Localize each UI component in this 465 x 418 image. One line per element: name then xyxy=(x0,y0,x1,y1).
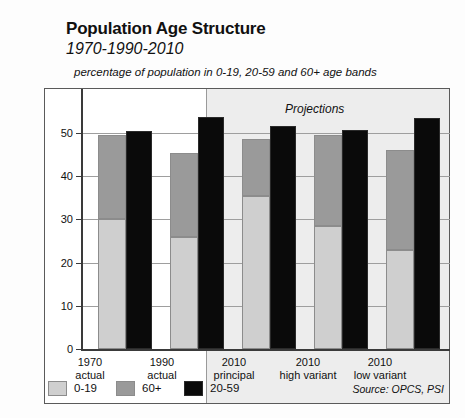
legend-label-60plus: 60+ xyxy=(142,382,162,394)
ytick-label-10: 10 xyxy=(45,300,73,312)
chart-subtitle: 1970-1990-2010 xyxy=(66,40,183,58)
chart-title: Population Age Structure xyxy=(66,19,266,39)
ytick-label-20: 20 xyxy=(45,257,73,269)
segment-60plus-2010-high xyxy=(314,135,342,226)
bar-20to59-2010-principal xyxy=(270,126,296,349)
segment-60plus-2010-low xyxy=(386,150,414,250)
bar-20to59-2010-high xyxy=(342,130,368,349)
legend-swatch-0to19 xyxy=(48,381,67,396)
segment-60plus-1990 xyxy=(170,153,198,237)
legend-label-20to59: 20-59 xyxy=(210,382,239,394)
ytick-label-0: 0 xyxy=(45,343,73,355)
chart-legend: 0-19 60+ 20-59 Source: OPCS, PSI xyxy=(44,380,450,404)
xcat-1970-actual: 1970 actual xyxy=(50,356,130,382)
xcat-1990-actual-line1: 1990 xyxy=(122,356,202,369)
segment-0to19-1990 xyxy=(170,237,198,349)
y-axis-line xyxy=(81,89,83,350)
legend-label-0to19: 0-19 xyxy=(74,382,97,394)
stacked-bar-1970 xyxy=(98,135,126,349)
segment-0to19-2010-principal xyxy=(242,196,270,349)
stacked-bar-2010-low xyxy=(386,150,414,349)
bar-20to59-2010-low xyxy=(414,118,440,349)
ytick-label-40: 40 xyxy=(45,170,73,182)
legend-swatch-20to59 xyxy=(184,381,203,396)
xcat-2010-principal-line1: 2010 xyxy=(194,356,274,369)
segment-60plus-1970 xyxy=(98,135,126,219)
ytick-label-50: 50 xyxy=(45,127,73,139)
bar-20to59-1970 xyxy=(126,131,152,349)
chart-figure: Population Age Structure 1970-1990-2010 … xyxy=(0,0,465,418)
segment-0to19-2010-high xyxy=(314,226,342,349)
xcat-2010-principal: 2010 principal xyxy=(194,356,274,382)
ytick-label-30: 30 xyxy=(45,213,73,225)
legend-swatch-60plus xyxy=(116,381,135,396)
xcat-2010-low-variant-line1: 2010 xyxy=(338,356,422,369)
segment-0to19-1970 xyxy=(98,219,126,349)
stacked-bar-2010-principal xyxy=(242,139,270,349)
x-axis-line xyxy=(81,349,450,351)
bar-20to59-1990 xyxy=(198,117,224,349)
segment-0to19-2010-low xyxy=(386,250,414,349)
stacked-bar-1990 xyxy=(170,153,198,349)
source-note: Source: OPCS, PSI xyxy=(352,383,444,395)
chart-description: percentage of population in 0-19, 20-59 … xyxy=(74,66,377,78)
segment-60plus-2010-principal xyxy=(242,139,270,196)
xcat-2010-low-variant: 2010 low variant xyxy=(338,356,422,382)
stacked-bar-2010-high xyxy=(314,135,342,349)
xcat-1990-actual: 1990 actual xyxy=(122,356,202,382)
xcat-1970-actual-line1: 1970 xyxy=(50,356,130,369)
